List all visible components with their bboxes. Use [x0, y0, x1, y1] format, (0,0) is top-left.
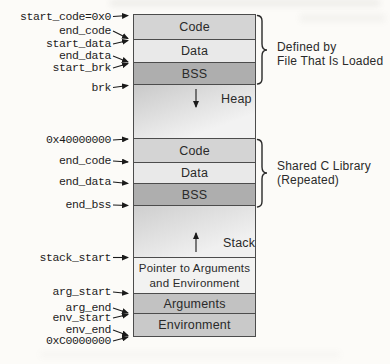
segment-data-shared: Data — [134, 163, 255, 184]
address-label-0xc0000000: 0xC0000000 — [0, 335, 111, 347]
address-label-end-code-shared: end_code — [0, 155, 111, 167]
arrow-start-code-icon — [113, 16, 128, 17]
segment-label: Pointer to Arguments and Environment — [136, 261, 253, 291]
segment-code-shared: Code — [134, 139, 255, 163]
segment-label: Arguments — [163, 297, 225, 311]
address-label-end-code: end_code — [0, 25, 111, 37]
arrow-end-code-icon — [113, 31, 128, 39]
address-label-end-bss: end_bss — [0, 199, 111, 211]
segment-label: BSS — [182, 188, 208, 202]
memory-map: Code Data BSS Code Data BSS Pointer to A… — [133, 14, 256, 337]
address-label-end-data-shared: end_data — [0, 176, 111, 188]
arrow-0x40000000-icon — [113, 139, 128, 140]
segment-label: Environment — [158, 318, 230, 332]
annotation-shared-c-library: Shared C Library (Repeated) — [277, 159, 371, 187]
segment-bss-file: BSS — [134, 63, 255, 85]
annotation-line: Shared C Library — [277, 159, 371, 173]
scan-artifact — [40, 352, 340, 357]
segment-code-file: Code — [134, 15, 255, 40]
arrow-end-bss-icon — [113, 205, 128, 206]
brace-defined-by-file-icon — [258, 16, 268, 85]
annotation-line: Defined by — [277, 40, 383, 54]
address-label-start-code: start_code=0x0 — [0, 11, 111, 23]
arrow-end-data-icon — [113, 56, 128, 62]
segment-data-file: Data — [134, 40, 255, 63]
process-memory-diagram: Code Data BSS Code Data BSS Pointer to A… — [0, 0, 390, 364]
address-label-start-brk: start_brk — [0, 62, 111, 74]
arrow-end-code-shared-icon — [113, 161, 128, 162]
segment-pointer-args-env: Pointer to Arguments and Environment — [134, 258, 255, 294]
arrow-env-end-icon — [113, 330, 128, 336]
annotation-braces — [258, 16, 268, 208]
segment-label: Data — [181, 166, 208, 180]
arrow-env-start-icon — [113, 315, 128, 319]
brace-shared-c-library-icon — [258, 140, 268, 208]
arrow-start-brk-icon — [113, 64, 128, 69]
scan-artifact — [300, 14, 385, 22]
annotation-line: (Repeated) — [277, 173, 371, 187]
annotation-defined-by-file: Defined by File That Is Loaded — [277, 40, 383, 68]
annotation-line: File That Is Loaded — [277, 54, 383, 68]
segment-label: BSS — [182, 67, 208, 81]
arrow-brk-icon — [113, 86, 128, 88]
segment-environment: Environment — [134, 314, 255, 336]
arrow-arg-end-icon — [113, 308, 128, 313]
segment-stack — [134, 206, 255, 258]
address-pointer-arrows — [113, 16, 128, 342]
address-label-stack-start: stack_start — [0, 252, 111, 264]
segment-label: Code — [179, 20, 210, 34]
scan-artifact — [110, 0, 380, 6]
segment-label: Data — [181, 44, 208, 58]
address-label-brk: brk — [0, 82, 111, 94]
address-label-0x40000000: 0x40000000 — [0, 134, 111, 146]
heap-label: Heap — [221, 92, 252, 106]
arrow-0xc0000000-icon — [113, 337, 128, 341]
stack-label: Stack — [223, 236, 255, 250]
address-label-arg-start: arg_start — [0, 286, 111, 298]
segment-arguments: Arguments — [134, 294, 255, 314]
segment-bss-shared: BSS — [134, 184, 255, 206]
arrow-start-data-icon — [113, 41, 128, 45]
arrow-end-data-shared-icon — [113, 182, 128, 184]
segment-label: Code — [179, 144, 210, 158]
arrow-arg-start-icon — [113, 292, 128, 294]
